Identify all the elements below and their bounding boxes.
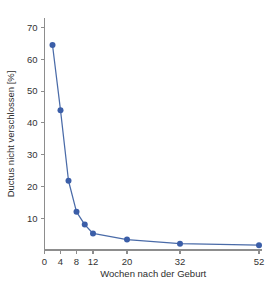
x-tick-label: 32 <box>175 256 186 267</box>
chart-plot-area: 10203040506070 04812203252 Wochen nach d… <box>0 0 273 289</box>
y-tick-label: 40 <box>27 117 38 128</box>
data-point-marker <box>74 209 80 215</box>
data-point-marker <box>82 222 88 228</box>
y-tick-label: 70 <box>27 22 38 33</box>
data-point-marker <box>50 42 56 48</box>
data-point-marker <box>256 242 262 248</box>
data-point-marker <box>177 241 183 247</box>
y-axis-title: Ductus nicht verschlossen [%] <box>5 71 16 198</box>
y-tick-label: 10 <box>27 213 38 224</box>
x-tick-label: 4 <box>58 256 63 267</box>
y-tick-label: 20 <box>27 181 38 192</box>
x-tick-label: 0 <box>42 256 47 267</box>
x-tick-label: 12 <box>88 256 99 267</box>
x-axis-ticks: 04812203252 <box>42 250 264 267</box>
data-point-marker <box>90 230 96 236</box>
x-axis-title: Wochen nach der Geburt <box>100 268 206 279</box>
x-tick-label: 20 <box>122 256 133 267</box>
y-axis-ticks: 10203040506070 <box>27 22 45 224</box>
x-tick-label: 8 <box>74 256 79 267</box>
data-point-marker <box>58 107 64 113</box>
chart-figure: 10203040506070 04812203252 Wochen nach d… <box>0 0 273 289</box>
data-point-marker <box>66 178 72 184</box>
y-tick-label: 60 <box>27 54 38 65</box>
data-point-marker <box>124 237 130 243</box>
data-series-line <box>53 45 260 245</box>
x-tick-label: 52 <box>254 256 265 267</box>
y-tick-label: 30 <box>27 149 38 160</box>
data-series-markers <box>50 42 263 248</box>
y-tick-label: 50 <box>27 85 38 96</box>
